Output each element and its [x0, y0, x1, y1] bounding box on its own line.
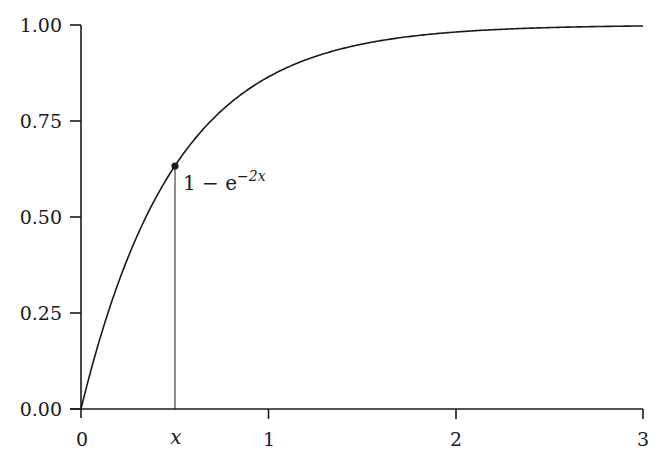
- x-tick-label-variable: x: [170, 425, 181, 449]
- y-tick-label: 0.00: [20, 398, 62, 420]
- y-tick-label: 0.50: [20, 206, 62, 228]
- x-tick-label: 0: [76, 428, 88, 450]
- x-tick-label: 2: [450, 428, 462, 450]
- x-tick-label: 1: [263, 428, 275, 450]
- function-curve: [81, 26, 643, 409]
- y-axis: [70, 25, 81, 418]
- chart: 1.00 0.75 0.50 0.25 0.00 0 x 1 2 3 1 − e…: [0, 0, 664, 465]
- x-tick-label: 3: [637, 428, 649, 450]
- annotation-base: 1 − e: [183, 171, 237, 195]
- x-axis: [70, 409, 643, 419]
- y-tick-label: 0.75: [20, 110, 62, 132]
- function-annotation: 1 − e−2x: [183, 168, 266, 195]
- y-tick-label: 1.00: [20, 14, 62, 36]
- marker-point: [171, 162, 178, 169]
- y-tick-label: 0.25: [20, 302, 62, 324]
- annotation-exponent: −2x: [237, 168, 266, 184]
